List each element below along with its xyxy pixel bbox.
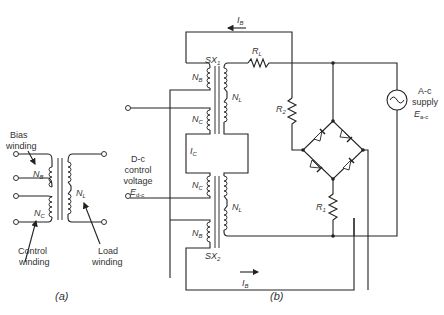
wire — [170, 220, 210, 222]
ac-label: supply — [412, 97, 439, 107]
r1-resistor-icon — [329, 179, 337, 236]
bias-winding-label: Bias — [10, 130, 28, 140]
control-winding-label: winding — [18, 257, 50, 267]
sx2-nl-coil-icon — [224, 210, 227, 230]
sx1-nb-coil-icon — [207, 68, 210, 88]
r2-resistor-icon — [288, 98, 303, 150]
dc-label: D-c — [131, 154, 145, 164]
diode-bridge — [303, 121, 363, 179]
dc-terminal-icon — [126, 106, 131, 111]
sx1-label: SX1 — [205, 55, 220, 66]
nc-label: NC — [34, 208, 46, 219]
caption-b: (b) — [270, 290, 284, 302]
terminal-icon — [14, 220, 19, 225]
sx2-nb-label: NB — [192, 228, 203, 239]
bias-wire-top — [18, 154, 52, 167]
junction-dot — [301, 148, 305, 152]
sx2-nl-label: NL — [232, 202, 242, 213]
wire — [224, 63, 248, 68]
rl-resistor-icon — [248, 59, 333, 67]
r2-label: R2 — [276, 104, 287, 115]
part-b-circuit: IB SX1 NB NC IC NL RL SX2 — [123, 15, 438, 302]
pointer-arrow — [84, 203, 100, 244]
ib-top-label: IB — [237, 15, 244, 26]
coil-link — [224, 88, 227, 102]
ac-label: A-c — [418, 86, 432, 96]
terminal-icon — [102, 152, 107, 157]
dc-label: voltage — [123, 176, 152, 186]
sx2-nc-coil-icon — [207, 176, 210, 196]
nl-label: NL — [76, 188, 86, 199]
r1-label: R1 — [316, 202, 326, 213]
caption-a: (a) — [55, 290, 69, 302]
sx2-label: SX2 — [205, 251, 221, 262]
bias-wire-bottom — [18, 178, 52, 187]
terminal-icon — [14, 194, 19, 199]
sx1-nc-label: NC — [192, 114, 204, 125]
load-series-wire — [224, 122, 248, 176]
load-wire-bottom — [68, 214, 102, 222]
sx1-nb-label: NB — [192, 72, 203, 83]
sx1-nc-coil-icon — [207, 110, 210, 130]
bridge-right-wire — [363, 150, 368, 290]
magnetic-amplifier-diagram: Bias winding NB NC Control winding NL Lo… — [0, 0, 444, 315]
ic-label: IC — [190, 146, 198, 157]
bias-series-wire — [170, 88, 210, 278]
diode-icon — [340, 130, 352, 142]
terminal-icon — [14, 152, 19, 157]
control-wire-top — [18, 196, 52, 197]
edc-label: Ed-c — [130, 187, 144, 198]
ac-bottom-wire — [333, 110, 397, 236]
ib-bottom-label: IB — [242, 278, 249, 289]
pointer-arrow — [28, 151, 35, 164]
terminal-icon — [102, 220, 107, 225]
sx2-nb-coil-icon — [207, 222, 210, 242]
eac-label: Ea-c — [414, 109, 428, 120]
sx2-nc-label: NC — [192, 180, 204, 191]
sx1-nl-coil-icon — [224, 102, 227, 122]
terminal-icon — [14, 176, 19, 181]
sx1-nl-label: NL — [232, 92, 242, 103]
load-winding-label: Load — [98, 246, 118, 256]
coil-link — [224, 196, 227, 210]
bias-loop-top — [186, 32, 292, 98]
ac-top-wire — [333, 63, 397, 90]
load-wire-top — [68, 154, 102, 162]
sx2-nl-coil-icon — [224, 176, 227, 196]
part-a-transformer: Bias winding NB NC Control winding NL Lo… — [5, 130, 123, 302]
control-winding-label: Control — [18, 246, 47, 256]
load-return-wire — [224, 230, 333, 236]
rl-label: RL — [252, 46, 262, 57]
dc-label: control — [124, 165, 151, 175]
nb-label: NB — [33, 169, 44, 180]
sx1-nl-coil-icon — [224, 68, 227, 88]
junction-dot — [331, 119, 335, 123]
load-winding-label: winding — [91, 257, 123, 267]
load-coil-link — [68, 182, 71, 194]
bias-winding-label: winding — [5, 141, 37, 151]
control-coil-icon — [49, 197, 52, 217]
